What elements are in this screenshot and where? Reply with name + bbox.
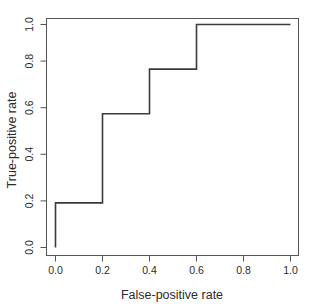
y-tick-label-2: 0.4 [23, 147, 35, 162]
roc-curve-line [56, 25, 291, 248]
y-axis-ticks [41, 25, 47, 248]
y-tick-labels: 0.0 0.2 0.4 0.6 0.8 1.0 [23, 17, 35, 255]
x-tick-label-2: 0.4 [142, 264, 157, 276]
x-tick-labels: 0.0 0.2 0.4 0.6 0.8 1.0 [48, 264, 298, 276]
plot-frame [47, 19, 299, 256]
x-tick-label-5: 1.0 [283, 264, 298, 276]
y-tick-label-0: 0.0 [23, 240, 35, 255]
x-tick-label-4: 0.8 [236, 264, 251, 276]
y-tick-label-3: 0.6 [23, 100, 35, 115]
y-tick-label-5: 1.0 [23, 17, 35, 32]
y-tick-label-4: 0.8 [23, 54, 35, 69]
y-axis-title: True-positive rate [5, 92, 19, 189]
x-tick-label-1: 0.2 [95, 264, 110, 276]
roc-curve-figure: 0.0 0.2 0.4 0.6 0.8 1.0 0.0 0.2 0.4 0.6 … [0, 0, 313, 308]
plot-canvas: 0.0 0.2 0.4 0.6 0.8 1.0 0.0 0.2 0.4 0.6 … [0, 0, 313, 308]
y-tick-label-1: 0.2 [23, 193, 35, 208]
x-tick-label-3: 0.6 [189, 264, 204, 276]
x-axis-ticks [56, 256, 291, 262]
x-tick-label-0: 0.0 [48, 264, 63, 276]
x-axis-title: False-positive rate [121, 288, 223, 302]
